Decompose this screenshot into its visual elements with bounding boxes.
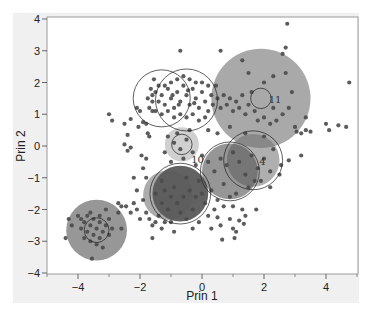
data-point — [212, 169, 216, 173]
data-point — [107, 217, 111, 221]
data-point — [166, 207, 170, 211]
data-point — [184, 217, 188, 221]
data-point — [232, 236, 236, 240]
y-tick-label: 1 — [34, 108, 40, 120]
data-point — [200, 90, 204, 94]
data-point — [327, 128, 331, 132]
data-point — [234, 230, 238, 234]
data-point — [184, 115, 188, 119]
data-point — [299, 153, 303, 157]
y-tick-label: 4 — [34, 13, 40, 25]
data-point — [191, 226, 195, 230]
data-point — [98, 214, 102, 218]
data-point — [150, 99, 154, 103]
data-point — [160, 179, 164, 183]
data-point — [188, 77, 192, 81]
data-point — [132, 201, 136, 205]
y-tick-label: 3 — [34, 45, 40, 57]
data-point — [160, 201, 164, 205]
data-point — [67, 217, 71, 221]
data-point — [88, 223, 92, 227]
data-point — [222, 204, 226, 208]
data-point — [243, 214, 247, 218]
data-point — [219, 49, 223, 53]
data-point — [181, 157, 185, 161]
data-point — [231, 204, 235, 208]
data-point — [138, 109, 142, 113]
data-point — [175, 90, 179, 94]
data-point — [85, 230, 89, 234]
data-point — [101, 230, 105, 234]
data-point — [219, 223, 223, 227]
data-point — [110, 119, 114, 123]
data-point — [209, 93, 213, 97]
data-point — [129, 145, 133, 149]
data-point — [206, 109, 210, 113]
data-point — [222, 182, 226, 186]
data-point — [285, 22, 289, 26]
data-point — [141, 166, 145, 170]
data-point — [160, 93, 164, 97]
data-point — [344, 125, 348, 129]
data-point — [116, 211, 120, 215]
data-point — [206, 214, 210, 218]
data-point — [215, 215, 219, 219]
data-point — [177, 103, 181, 107]
data-point — [104, 207, 108, 211]
data-point — [170, 93, 174, 97]
data-point — [256, 119, 260, 123]
data-point — [246, 71, 250, 75]
data-point — [192, 101, 196, 105]
data-point — [79, 217, 83, 221]
data-point — [169, 160, 173, 164]
data-point — [231, 226, 235, 230]
data-point — [203, 201, 207, 205]
cluster-label: 11 — [269, 94, 282, 105]
data-point — [304, 115, 308, 119]
data-point — [184, 138, 188, 142]
data-point — [98, 220, 102, 224]
data-point — [88, 211, 92, 215]
y-tick-label: 2 — [34, 77, 40, 89]
data-point — [64, 236, 68, 240]
data-point — [240, 58, 244, 62]
data-point — [163, 188, 167, 192]
data-point — [124, 204, 128, 208]
data-point — [147, 106, 151, 110]
data-point — [166, 109, 170, 113]
y-tick-label: −2 — [27, 204, 40, 216]
data-point — [191, 207, 195, 211]
data-point — [98, 236, 102, 240]
data-point — [211, 103, 215, 107]
data-point — [181, 195, 185, 199]
x-tick-label: −4 — [72, 281, 85, 293]
data-point — [284, 71, 288, 75]
data-point — [237, 219, 241, 223]
data-point — [219, 106, 223, 110]
data-point — [281, 52, 285, 56]
data-point — [304, 128, 308, 132]
data-point — [107, 112, 111, 116]
data-point — [206, 160, 210, 164]
data-point — [147, 217, 151, 221]
data-point — [95, 226, 99, 230]
x-axis-title: Prin 1 — [186, 289, 218, 303]
data-point — [188, 188, 192, 192]
data-point — [253, 179, 257, 183]
data-point — [197, 179, 201, 183]
data-point — [287, 158, 291, 162]
data-point — [153, 192, 157, 196]
data-point — [163, 150, 167, 154]
data-point — [175, 77, 179, 81]
data-point — [234, 99, 238, 103]
y-tick-label: 0 — [34, 140, 40, 152]
data-point — [284, 45, 288, 49]
data-point — [194, 96, 198, 100]
data-point — [144, 157, 148, 161]
data-point — [188, 128, 192, 132]
data-point — [240, 207, 244, 211]
x-tick-label: −2 — [134, 281, 147, 293]
data-point — [172, 106, 176, 110]
data-point — [146, 96, 150, 100]
data-point — [178, 49, 182, 53]
